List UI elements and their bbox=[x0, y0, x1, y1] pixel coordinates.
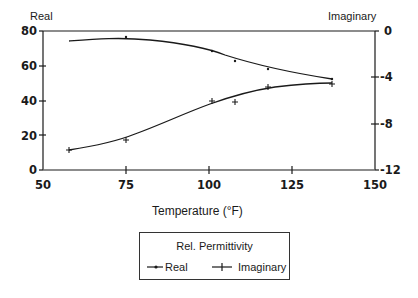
plus-line-icon bbox=[212, 262, 232, 272]
legend: Rel. Permittivity Real Imaginary bbox=[139, 232, 290, 280]
legend-label-real: Real bbox=[165, 261, 188, 273]
legend-item-real: Real bbox=[147, 261, 188, 273]
legend-label-imaginary: Imaginary bbox=[238, 261, 286, 273]
dot-line-icon bbox=[147, 263, 163, 271]
imaginary-series-line bbox=[69, 83, 332, 150]
legend-item-imaginary: Imaginary bbox=[212, 261, 286, 273]
real-series-line bbox=[69, 38, 332, 79]
legend-title: Rel. Permittivity bbox=[140, 240, 289, 252]
